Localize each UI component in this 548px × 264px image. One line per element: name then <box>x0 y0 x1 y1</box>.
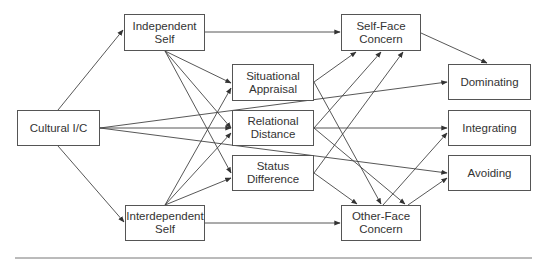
node-label-line2: Distance <box>247 128 298 141</box>
edge-independent-relational <box>165 51 231 128</box>
node-label: Integrating <box>462 122 516 135</box>
node-other-face-concern: Other-FaceConcern <box>341 205 421 241</box>
node-situational-appraisal: SituationalAppraisal <box>232 64 314 101</box>
edge-otherface-avoiding <box>408 178 447 205</box>
node-independent-self: IndependentSelf <box>124 14 205 51</box>
edge-otherface-integrating <box>383 133 447 205</box>
node-integrating: Integrating <box>448 110 531 146</box>
node-relational-distance: RelationalDistance <box>232 110 314 146</box>
node-dominating: Dominating <box>448 64 531 100</box>
node-label-line1: Status <box>247 160 299 173</box>
edge-cultural-independent <box>58 30 123 110</box>
edge-interdependent-situational <box>165 88 231 205</box>
edge-status-otherface <box>314 173 357 204</box>
node-label-line1: Relational <box>247 115 298 128</box>
edge-situational-selfface <box>314 52 356 82</box>
edge-situational-otherface <box>314 82 381 204</box>
edge-interdependent-status <box>165 178 231 205</box>
node-label-line2: Difference <box>247 173 299 186</box>
edge-relational-selfface <box>314 52 381 128</box>
node-label-line1: Interdependent <box>126 210 203 223</box>
node-label-line2: Appraisal <box>246 83 300 96</box>
node-label-line2: Concern <box>352 223 410 236</box>
edge-independent-situational <box>165 51 231 83</box>
node-label-line2: Self <box>133 33 197 46</box>
node-label-line2: Concern <box>356 33 405 46</box>
node-avoiding: Avoiding <box>448 155 531 191</box>
edge-selfface-dominating <box>421 33 487 63</box>
node-interdependent-self: InterdependentSelf <box>125 205 205 241</box>
node-cultural-ic: Cultural I/C <box>17 110 100 146</box>
node-label: Dominating <box>460 76 518 89</box>
node-label-line1: Other-Face <box>352 210 410 223</box>
node-label: Avoiding <box>468 167 512 180</box>
edge-cultural-interdependent <box>58 146 124 222</box>
node-label: Cultural I/C <box>30 122 88 135</box>
path-diagram: Cultural I/C IndependentSelf Interdepend… <box>0 0 548 264</box>
node-status-difference: StatusDifference <box>232 155 314 191</box>
node-label-line1: Independent <box>133 20 197 33</box>
node-label-line1: Self-Face <box>356 20 405 33</box>
node-label-line1: Situational <box>246 70 300 83</box>
node-self-face-concern: Self-FaceConcern <box>341 14 421 51</box>
node-label-line2: Self <box>126 223 203 236</box>
edge-interdependent-relational <box>165 133 231 205</box>
